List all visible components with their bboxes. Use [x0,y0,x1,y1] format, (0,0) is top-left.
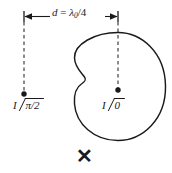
dimension-label: d = λ0/4 [52,7,86,20]
source-point-right [115,87,120,92]
arrow-left-icon [25,13,33,20]
dimension-equals: = [58,6,70,18]
cardioid-radiation-pattern [74,33,165,141]
source-right-current: I [102,99,106,111]
source-left-current: I [13,99,17,111]
arrow-right-icon [110,13,118,20]
antenna-array-figure: d = λ0/4 Iπ/2 I0 ✕ [0,0,172,173]
source-label-right: I0 [102,98,119,111]
cross-icon: ✕ [76,146,93,166]
dimension-divisor: /4 [78,6,87,18]
source-left-phase: π/2 [25,100,39,111]
source-point-left [21,91,26,96]
source-label-left: Iπ/2 [13,98,38,111]
source-right-phase: 0 [114,100,120,111]
